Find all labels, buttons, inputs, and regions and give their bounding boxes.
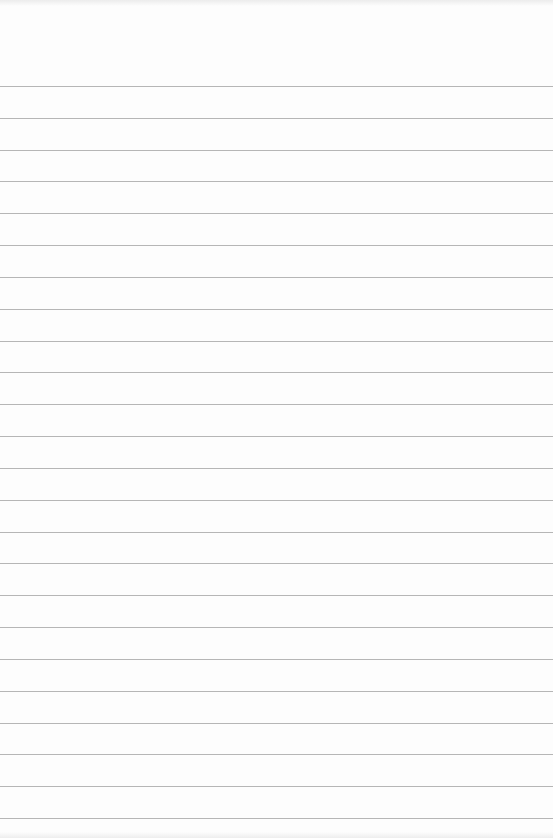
ruled-line — [0, 468, 553, 469]
bottom-edge — [0, 832, 553, 838]
ruled-line — [0, 245, 553, 246]
ruled-line — [0, 181, 553, 182]
ruled-line — [0, 404, 553, 405]
ruled-line — [0, 372, 553, 373]
ruled-line — [0, 691, 553, 692]
ruled-line — [0, 818, 553, 819]
ruled-line — [0, 213, 553, 214]
ruled-line — [0, 118, 553, 119]
ruled-line — [0, 277, 553, 278]
top-edge — [0, 0, 553, 6]
ruled-line — [0, 150, 553, 151]
ruled-line — [0, 595, 553, 596]
ruled-line — [0, 86, 553, 87]
ruled-line — [0, 627, 553, 628]
ruled-line — [0, 309, 553, 310]
ruled-line — [0, 436, 553, 437]
ruled-line — [0, 341, 553, 342]
ruled-line — [0, 659, 553, 660]
ruled-line — [0, 754, 553, 755]
ruled-line — [0, 532, 553, 533]
ruled-line — [0, 786, 553, 787]
ruled-line — [0, 723, 553, 724]
ruled-line — [0, 563, 553, 564]
ruled-line — [0, 500, 553, 501]
lined-paper-sheet — [0, 0, 553, 838]
